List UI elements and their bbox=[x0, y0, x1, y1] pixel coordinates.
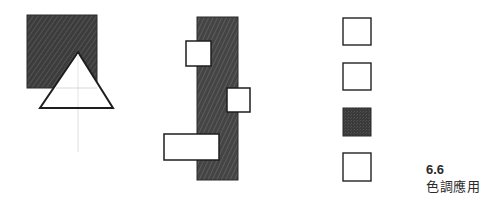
white-box-middle bbox=[227, 88, 250, 112]
sketch-figures bbox=[0, 0, 480, 200]
figure-square-triangle bbox=[27, 15, 113, 152]
figure-number: 6.6 bbox=[426, 162, 480, 178]
white-square-1 bbox=[343, 18, 371, 45]
white-box-top bbox=[186, 41, 211, 66]
illustration-canvas: 6.6 色調應用 bbox=[0, 0, 480, 200]
figure-title: 色調應用 bbox=[426, 178, 480, 195]
white-box-bottom bbox=[164, 134, 219, 160]
figure-caption: 6.6 色調應用 bbox=[426, 162, 480, 195]
dark-square bbox=[343, 108, 371, 136]
figure-strip-boxes bbox=[164, 17, 250, 180]
white-square-3 bbox=[343, 153, 371, 181]
figure-tone-squares bbox=[343, 18, 371, 181]
white-square-2 bbox=[343, 63, 371, 90]
